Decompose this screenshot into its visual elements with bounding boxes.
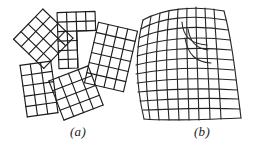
mesh-block-right bbox=[85, 22, 138, 91]
panel-b-merged-mesh bbox=[136, 7, 241, 120]
mesh-block-top-center-L bbox=[57, 11, 97, 68]
panel-b-caption: (b) bbox=[182, 124, 222, 140]
panel-a-mesh-blocks bbox=[14, 9, 138, 120]
figure-root: (a) (b) bbox=[0, 0, 257, 150]
panel-a-caption: (a) bbox=[58, 124, 98, 140]
